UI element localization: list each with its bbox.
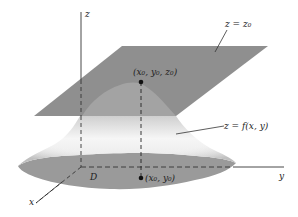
surface-plot-diagram: z y x z = z₀ z = f(x, y) (x₀, y₀, z₀) (x… bbox=[0, 0, 298, 217]
z-axis-label: z bbox=[84, 9, 90, 19]
top-point-label: (x₀, y₀, z₀) bbox=[133, 67, 178, 77]
point-base bbox=[139, 176, 144, 181]
domain-label: D bbox=[89, 172, 97, 182]
base-point-label: (x₀, y₀) bbox=[145, 173, 176, 183]
point-top bbox=[139, 80, 144, 85]
surface-label: z = f(x, y) bbox=[223, 121, 269, 131]
y-axis-label: y bbox=[278, 171, 285, 181]
x-axis-label: x bbox=[29, 197, 34, 207]
plane-label: z = z₀ bbox=[224, 19, 252, 29]
domain-region bbox=[18, 153, 236, 189]
